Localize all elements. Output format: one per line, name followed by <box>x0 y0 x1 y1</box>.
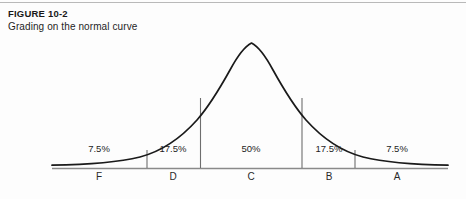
grade-label-f: F <box>96 171 102 182</box>
figure-container: FIGURE 10-2 Grading on the normal curve … <box>0 0 466 199</box>
grade-label-layer: F D C B A <box>0 0 466 199</box>
grade-label-b: B <box>326 171 333 182</box>
grade-label-a: A <box>394 171 401 182</box>
grade-label-c: C <box>247 171 254 182</box>
grade-label-d: D <box>169 171 176 182</box>
